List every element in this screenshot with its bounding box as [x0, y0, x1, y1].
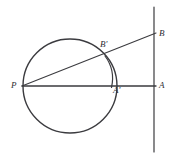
point-label-b: B — [159, 29, 165, 38]
geometry-figure: P B' A' B A — [0, 0, 175, 159]
geometry-canvas — [0, 0, 175, 159]
point-label-p: P — [11, 81, 17, 90]
point-label-b-prime: B' — [100, 40, 107, 49]
point-label-a: A — [159, 81, 165, 90]
secant-line-p-to-b — [22, 33, 156, 86]
point-label-a-prime: A' — [113, 86, 120, 95]
